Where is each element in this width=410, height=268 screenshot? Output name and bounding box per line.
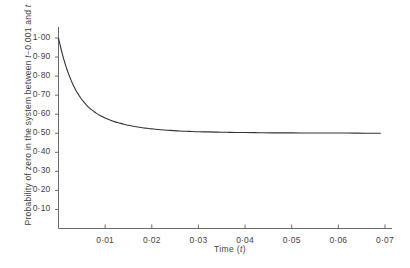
x-tick-label: 0·04 — [228, 235, 262, 245]
x-tick-label: 0·06 — [321, 235, 355, 245]
plot-canvas — [0, 0, 410, 268]
y-tick-label: 0·30 — [17, 165, 51, 175]
y-tick-label: 0·80 — [17, 70, 51, 80]
data-curve — [59, 38, 381, 133]
x-tick-label: 0·03 — [181, 235, 215, 245]
y-tick-label: 0·40 — [17, 146, 51, 156]
y-tick-label: 0·50 — [17, 127, 51, 137]
x-axis-title-prefix: Time ( — [214, 244, 240, 254]
x-tick-label: 0·05 — [275, 235, 309, 245]
y-tick-label: 0·10 — [17, 203, 51, 213]
chart-figure: 0·100·200·300·400·500·600·700·800·901·00… — [0, 0, 410, 268]
x-tick-label: 0·02 — [135, 235, 169, 245]
y-tick-label: 0·60 — [17, 108, 51, 118]
y-tick-marks — [55, 38, 59, 209]
x-tick-label: 0·07 — [368, 235, 402, 245]
x-axis-title: Time (t) — [140, 244, 320, 254]
y-tick-label: 0·90 — [17, 51, 51, 61]
y-axis-title-part1: Probability of zero in the system betwee… — [23, 58, 33, 226]
x-tick-marks — [105, 225, 385, 229]
y-axis-title-part2: −0.001 and — [23, 7, 33, 55]
y-axis-title: Probability of zero in the system betwee… — [23, 0, 33, 235]
y-tick-label: 1·00 — [17, 32, 51, 42]
y-axis-title-symbol-2: t — [23, 5, 33, 8]
x-tick-label: 0·01 — [88, 235, 122, 245]
x-axis-title-suffix: ) — [243, 244, 246, 254]
y-tick-label: 0·20 — [17, 184, 51, 194]
y-axis-title-symbol-1: t — [23, 55, 33, 58]
y-tick-label: 0·70 — [17, 89, 51, 99]
